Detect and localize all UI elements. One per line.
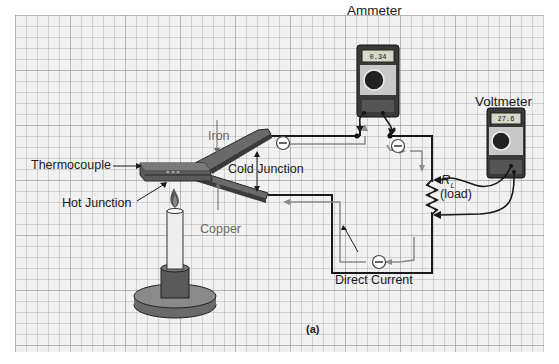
- direct-current-label: Direct Current: [335, 273, 413, 287]
- panel-label: (a): [306, 323, 319, 335]
- circuit-wires: [268, 125, 432, 273]
- ammeter-device: 0.34: [356, 45, 399, 136]
- ammeter-label: Ammeter: [347, 3, 402, 18]
- cold-junction-label: Cold Junction: [228, 162, 304, 176]
- svg-text:27.6: 27.6: [498, 115, 515, 123]
- current-flow-arrows: [288, 136, 422, 262]
- hot-junction-label: Hot Junction: [62, 196, 131, 210]
- voltmeter-label: Voltmeter: [475, 94, 532, 109]
- voltmeter-device: 27.6: [433, 108, 525, 219]
- svg-text:0.34: 0.34: [370, 53, 387, 61]
- thermocouple-label: Thermocouple: [31, 158, 111, 172]
- resistor-load-label: (load): [440, 187, 472, 201]
- candle-burner: [134, 188, 216, 318]
- iron-label: Iron: [208, 129, 230, 143]
- svg-text:× × ×: × × ×: [166, 169, 180, 175]
- copper-label: Copper: [200, 222, 241, 236]
- thermocouple-circuit-diagram: × × × 0.34: [0, 0, 559, 364]
